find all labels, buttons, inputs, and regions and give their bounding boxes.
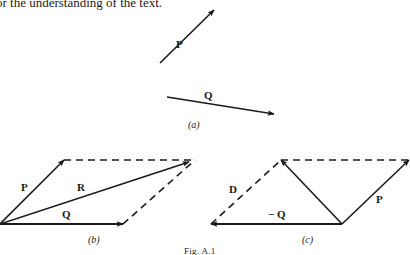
dashed-right-edge	[123, 160, 195, 224]
vector-d-arrow	[281, 160, 342, 224]
vector-q-label: Q	[62, 208, 71, 220]
panel-c: D P − Q (c)	[211, 160, 410, 246]
vector-q-arrow	[167, 97, 274, 114]
vector-p-label: P	[376, 193, 383, 205]
figure-caption: Fig. A.1	[184, 246, 216, 255]
panel-c-label: (c)	[302, 234, 314, 246]
panel-a: P Q (a)	[160, 10, 274, 131]
vector-d-label: D	[229, 183, 237, 195]
panel-b-label: (b)	[88, 234, 100, 246]
vector-p-label: P	[21, 181, 28, 193]
vector-p-label: P	[176, 38, 183, 50]
vector-neg-q-label: − Q	[268, 208, 286, 220]
vector-p-arrow	[160, 10, 214, 63]
panel-a-label: (a)	[188, 119, 200, 131]
vector-p-arrow	[342, 160, 409, 224]
panel-b: P R Q (b)	[0, 160, 195, 246]
vector-p-arrow	[0, 160, 64, 224]
header-text: or the understanding of the text.	[0, 0, 162, 10]
vector-r-label: R	[77, 181, 86, 193]
vector-r-arrow	[0, 162, 189, 224]
vector-q-label: Q	[204, 89, 213, 101]
vector-diagram: or the understanding of the text. P Q (a…	[0, 0, 410, 255]
